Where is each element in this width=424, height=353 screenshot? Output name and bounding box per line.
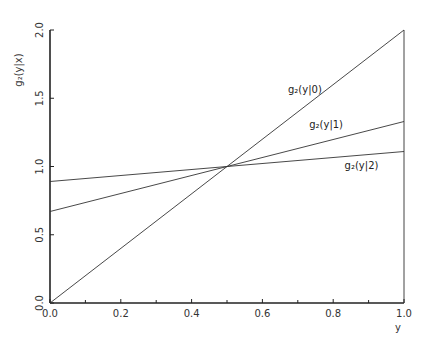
- x-tick-label: 0.6: [254, 308, 270, 319]
- series-label-2: g₂(y|2): [345, 160, 379, 172]
- y-tick-label: 0.0: [34, 295, 45, 311]
- x-tick-label: 0.2: [113, 308, 129, 319]
- x-axis-label: y: [395, 322, 401, 333]
- x-tick-label: 0.8: [325, 308, 341, 319]
- y-axis-label: g₂(y|x): [13, 53, 25, 86]
- series-labels: g₂(y|0)g₂(y|1)g₂(y|2): [288, 84, 379, 172]
- series-label-1: g₂(y|1): [309, 119, 343, 131]
- line-chart: 0.00.20.40.60.81.00.00.51.01.52.0g₂(y|x)…: [0, 0, 424, 353]
- y-tick-label: 0.5: [34, 227, 45, 243]
- series-label-0: g₂(y|0): [288, 84, 322, 96]
- x-tick-label: 0.4: [184, 308, 200, 319]
- y-tick-label: 1.0: [34, 159, 45, 175]
- x-tick-label: 1.0: [396, 308, 412, 319]
- y-tick-label: 2.0: [34, 22, 45, 38]
- y-tick-label: 1.5: [34, 90, 45, 106]
